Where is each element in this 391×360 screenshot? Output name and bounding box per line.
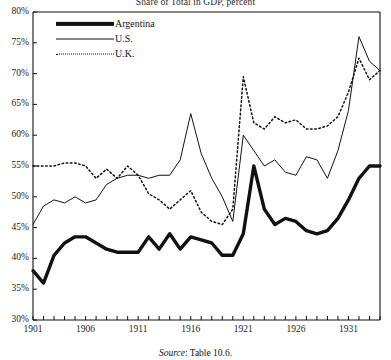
source-prefix: Source <box>159 348 185 358</box>
source-note: Source: Table 10.6. <box>0 348 391 358</box>
y-axis-tick-label: 75% <box>0 37 29 47</box>
data-series-layer <box>33 37 380 283</box>
legend-item-argentina: Argentina <box>56 16 176 31</box>
x-axis-tick-label: 1931 <box>328 324 368 334</box>
y-axis-tick-label: 65% <box>0 98 29 108</box>
source-text: : Table 10.6. <box>185 348 232 358</box>
x-axis-tick-label: 1911 <box>118 324 158 334</box>
legend-label-uk: U.K. <box>114 48 134 59</box>
y-axis-tick-label: 40% <box>0 252 29 262</box>
x-axis-tick-label: 1921 <box>223 324 263 334</box>
legend-label-us: U.S. <box>114 33 133 44</box>
x-axis-tick-label: 1906 <box>66 324 106 334</box>
y-axis-tick-label: 45% <box>0 222 29 232</box>
legend-swatch-argentina <box>56 19 114 29</box>
legend-swatch-uk <box>56 49 114 59</box>
series-line-uk <box>33 58 380 224</box>
y-axis-tick-label: 35% <box>0 283 29 293</box>
chart-figure: Share of Total in GDP, percent 30%35%40%… <box>0 0 391 360</box>
x-axis-tick-label: 1901 <box>13 324 53 334</box>
legend-item-uk: U.K. <box>56 46 176 61</box>
y-axis-tick-label: 60% <box>0 129 29 139</box>
chart-legend: Argentina U.S. U.K. <box>56 16 176 61</box>
x-axis-tick-label: 1916 <box>171 324 211 334</box>
legend-label-argentina: Argentina <box>114 18 155 29</box>
x-axis-ticks <box>33 316 380 320</box>
y-axis-tick-label: 30% <box>0 314 29 324</box>
y-axis-tick-label: 55% <box>0 160 29 170</box>
x-axis-tick-label: 1926 <box>276 324 316 334</box>
y-axis-tick-label: 50% <box>0 191 29 201</box>
series-line-us <box>33 37 380 225</box>
legend-swatch-us <box>56 34 114 44</box>
y-axis-tick-label: 70% <box>0 68 29 78</box>
y-axis-tick-label: 80% <box>0 6 29 16</box>
legend-item-us: U.S. <box>56 31 176 46</box>
series-line-argentina <box>33 166 380 283</box>
